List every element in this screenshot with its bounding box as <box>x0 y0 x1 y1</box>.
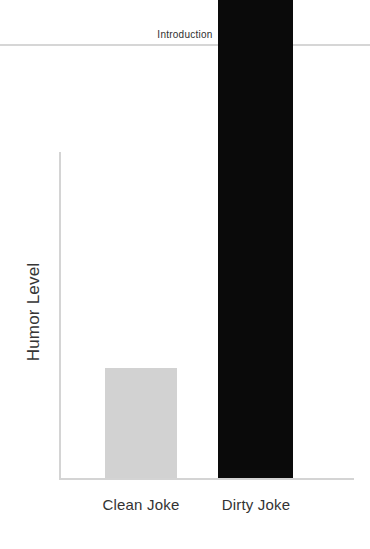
y-axis-line <box>59 152 61 480</box>
bar-clean-joke <box>105 368 177 478</box>
x-axis-line <box>59 478 354 480</box>
bar-dirty-joke <box>218 0 293 478</box>
x-axis-tick-label-clean-joke: Clean Joke <box>81 496 201 513</box>
bar-chart: Humor Level Clean Joke Dirty Joke <box>0 0 370 549</box>
y-axis-label: Humor Level <box>24 242 44 382</box>
slide-canvas: Introduction Humor Level Clean Joke Dirt… <box>0 0 370 549</box>
x-axis-tick-label-dirty-joke: Dirty Joke <box>196 496 316 513</box>
